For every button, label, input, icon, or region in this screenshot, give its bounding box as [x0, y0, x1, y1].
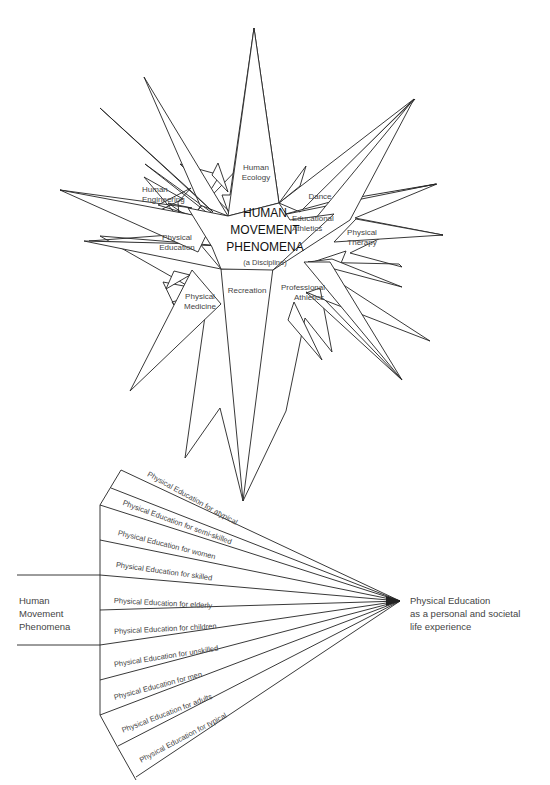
ray-label-line: Education — [152, 243, 202, 253]
ray-label-physical-medicine: Physical Medicine — [178, 292, 222, 312]
ray-label-line: Physical — [152, 233, 202, 243]
ray-label-line: Ecology — [228, 173, 284, 183]
ray-label-line: Engineering — [142, 195, 198, 205]
ray-label-line: Recreation — [222, 286, 272, 296]
fan-right-label-line: Physical Education — [410, 594, 520, 607]
ray-label-physical-education: Physical Education — [152, 233, 202, 253]
ray-label-line: Medicine — [178, 302, 222, 312]
center-title-line-3: PHENOMENA — [215, 239, 315, 256]
fan-left-label: Human Movement Phenomena — [19, 594, 70, 633]
ray-label-recreation: Recreation — [222, 286, 272, 296]
fan-right-label-line: as a personal and societal — [410, 607, 520, 620]
ray-label-line: Human — [142, 185, 198, 195]
ray-label-line: Dance — [300, 192, 340, 202]
ray-label-line: Human — [228, 163, 284, 173]
ray-label-professional-athletics: Professional Athletics — [272, 283, 334, 303]
ray-label-line: Therapy — [342, 238, 382, 248]
fan-right-label: Physical Education as a personal and soc… — [410, 594, 520, 633]
diagram-canvas — [0, 0, 550, 785]
ray-label-dance: Dance — [300, 192, 340, 202]
fan-left-label-line: Phenomena — [19, 620, 70, 633]
ray-label-line: Educational — [292, 214, 348, 224]
ray-label-line: Athletics — [292, 224, 348, 234]
ray-label-line: Physical — [178, 292, 222, 302]
fan-left-edge — [100, 470, 136, 780]
ray-label-educational-athletics: Educational Athletics — [292, 214, 348, 234]
ray-label-human-engineering: Human Engineering — [142, 185, 198, 205]
center-subtitle: (a Discipline) — [220, 258, 310, 267]
ray-label-line: Professional — [272, 283, 334, 293]
ray-label-human-ecology: Human Ecology — [228, 163, 284, 183]
fan-left-label-line: Movement — [19, 607, 70, 620]
fan-right-label-line: life experience — [410, 620, 520, 633]
ray-label-physical-therapy: Physical Therapy — [342, 228, 382, 248]
ray-label-line: Athletics — [272, 293, 334, 303]
ray-label-line: Physical — [342, 228, 382, 238]
fan-left-label-line: Human — [19, 594, 70, 607]
